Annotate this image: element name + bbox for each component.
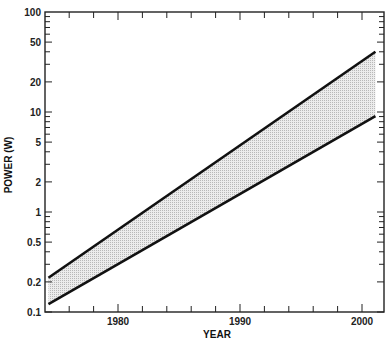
power-vs-year-chart: 1005020105210.50.20.1 198019902000 POWER… [0,0,392,347]
y-tick-label: 1 [35,207,41,218]
lower-bound-line [48,116,375,304]
y-tick-label: 0.5 [27,237,41,248]
y-tick-label: 50 [30,37,42,48]
x-tick-label: 1990 [229,316,252,327]
y-tick-label: 10 [30,107,42,118]
y-tick-label: 100 [24,7,41,18]
x-tick-label: 1980 [107,316,130,327]
shaded-band [48,52,375,304]
x-axis-title: YEAR [203,329,232,340]
band-fill [48,52,375,304]
y-tick-label: 0.2 [27,277,41,288]
y-axis-title: POWER (W) [3,137,14,194]
y-tick-label: 20 [30,77,42,88]
y-tick-label: 5 [35,137,41,148]
y-tick-label: 0.1 [27,307,41,318]
y-tick-label: 2 [35,177,41,188]
x-tick-label: 2000 [351,316,374,327]
upper-bound-line [48,52,375,278]
